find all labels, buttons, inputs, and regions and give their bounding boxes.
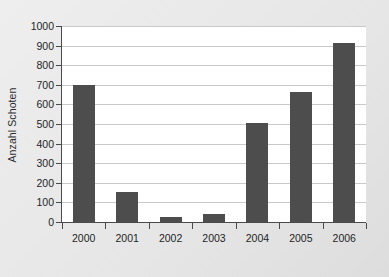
bar-2003 [203, 214, 225, 222]
y-tick-label: 600 [8, 99, 54, 110]
x-tick-label-2003: 2003 [192, 233, 235, 244]
x-tick-mark [105, 223, 106, 229]
x-tick-mark [279, 223, 280, 229]
bar-2004 [246, 123, 268, 222]
x-tick-label-2000: 2000 [62, 233, 105, 244]
y-tick-mark [56, 183, 61, 184]
x-tick-label-2004: 2004 [236, 233, 279, 244]
bar-2001 [116, 192, 138, 222]
y-tick-label: 100 [8, 197, 54, 208]
y-tick-mark [56, 202, 61, 203]
x-tick-mark [192, 223, 193, 229]
y-tick-mark [56, 124, 61, 125]
bar-2006 [333, 43, 355, 222]
y-tick-mark [56, 65, 61, 66]
bar-chart-figure: Anzahl Schoten 0100200300400500600700800… [0, 0, 389, 277]
y-tick-mark [56, 85, 61, 86]
y-tick-label: 200 [8, 178, 54, 189]
y-tick-mark [56, 144, 61, 145]
y-tick-label: 500 [8, 119, 54, 130]
y-tick-label: 1000 [8, 21, 54, 32]
y-tick-mark [56, 26, 61, 27]
x-tick-mark [323, 223, 324, 229]
y-tick-mark [56, 46, 61, 47]
y-tick-label: 800 [8, 60, 54, 71]
x-tick-label-2001: 2001 [105, 233, 148, 244]
x-tick-mark [149, 223, 150, 229]
y-tick-label: 400 [8, 139, 54, 150]
y-tick-label: 900 [8, 41, 54, 52]
y-tick-mark [56, 163, 61, 164]
y-tick-label: 300 [8, 158, 54, 169]
y-tick-label: 700 [8, 80, 54, 91]
y-tick-mark [56, 222, 61, 223]
x-tick-label-2002: 2002 [149, 233, 192, 244]
x-axis-line [61, 222, 366, 223]
x-tick-label-2005: 2005 [279, 233, 322, 244]
x-tick-mark [62, 223, 63, 229]
bar-2002 [160, 217, 182, 222]
y-tick-mark [56, 104, 61, 105]
x-tick-mark [366, 223, 367, 229]
y-tick-label: 0 [8, 217, 54, 228]
bar-2000 [73, 85, 95, 222]
bars-group [62, 26, 366, 222]
bar-2005 [290, 92, 312, 222]
x-tick-label-2006: 2006 [323, 233, 366, 244]
x-tick-mark [236, 223, 237, 229]
